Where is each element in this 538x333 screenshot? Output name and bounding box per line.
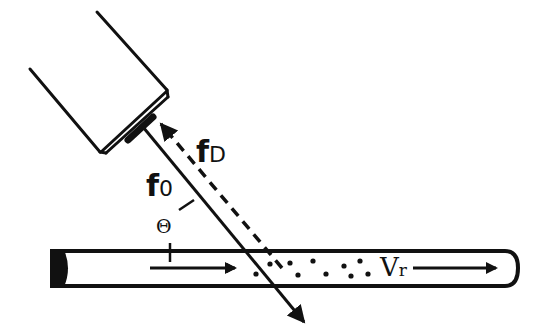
blood-cells — [253, 258, 370, 278]
transmitted-sub: 0 — [159, 176, 173, 201]
velocity-v: V — [380, 252, 399, 282]
velocity-sub: r — [399, 260, 407, 280]
velocity-label: Vr — [380, 254, 407, 280]
doppler-f: f — [196, 134, 209, 169]
doppler-frequency-label: fD — [196, 137, 226, 167]
doppler-diagram: fD f0 Θ Vr — [0, 0, 538, 333]
doppler-sub: D — [209, 142, 226, 167]
transmitted-frequency-label: f0 — [146, 171, 173, 201]
transmitted-f: f — [146, 168, 159, 203]
diagram-canvas — [0, 0, 538, 333]
angle-label: Θ — [156, 217, 172, 236]
angle-leader — [179, 200, 194, 210]
